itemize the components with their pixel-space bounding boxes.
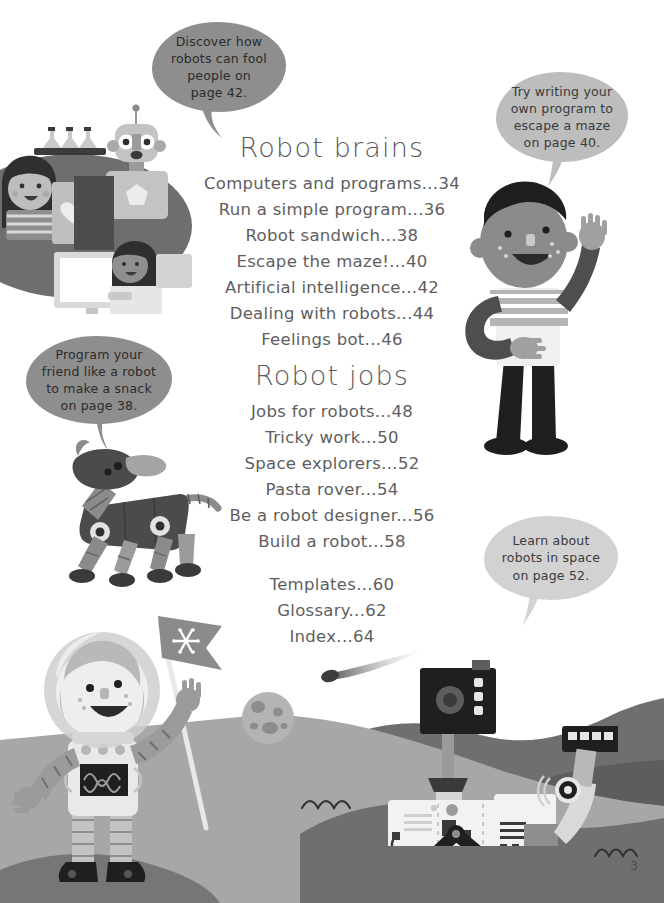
toc-entry-dots: ... [422, 174, 439, 193]
toc-entry-page: 36 [424, 200, 446, 219]
toc-entry-page: 38 [397, 226, 419, 245]
toc-entry-dots: ... [401, 278, 418, 297]
toc-entry[interactable]: Robot sandwich...38 [0, 223, 664, 249]
mars-rover-illustration [378, 618, 618, 846]
toc-entry-title: Robot sandwich [246, 226, 381, 245]
toc-entry-dots: ... [368, 532, 385, 551]
toc-entry-page: 34 [438, 174, 460, 193]
page-number: 3 [630, 859, 638, 873]
toc-entry-title: Computers and programs [204, 174, 422, 193]
bubble-line: Discover how [171, 33, 267, 50]
toc-entry-title: Dealing with robots [230, 304, 396, 323]
toc-entry-page: 50 [377, 428, 399, 447]
toc-entry[interactable]: Pasta rover...54 [0, 477, 664, 503]
bubble-line: Try writing your [511, 83, 613, 100]
toc-entry-page: 56 [413, 506, 435, 525]
toc-entry-dots: ... [356, 575, 373, 594]
bubble-tail-icon [518, 592, 552, 628]
bubble-line: escape a maze [511, 117, 613, 134]
toc-entry-title: Feelings bot [261, 330, 364, 349]
toc-entry-title: Artificial intelligence [225, 278, 401, 297]
toc-entry[interactable]: Run a simple program...36 [0, 197, 664, 223]
toc-entry-dots: ... [389, 252, 406, 271]
toc-entry-title: Escape the maze! [236, 252, 389, 271]
toc-entry-page: 58 [384, 532, 406, 551]
toc-entry-title: Space explorers [244, 454, 381, 473]
toc-entry-dots: ... [396, 304, 413, 323]
toc-entry-dots: ... [380, 226, 397, 245]
speech-bubble-discover[interactable]: Discover how robots can fool people on p… [152, 22, 286, 112]
toc-entry-dots: ... [375, 402, 392, 421]
toc-entry-page: 60 [373, 575, 395, 594]
bubble-line: Learn about [502, 532, 601, 549]
moon-illustration [240, 690, 296, 746]
toc-entry-page: 64 [353, 627, 375, 646]
toc-entry-page: 54 [377, 480, 399, 499]
toc-entry-title: Build a robot [258, 532, 367, 551]
toc-entry[interactable]: Index...64 [0, 624, 664, 650]
toc-entry-title: Run a simple program [219, 200, 407, 219]
toc-entry-page: 44 [413, 304, 435, 323]
toc-entry-title: Be a robot designer [230, 506, 397, 525]
toc-entry[interactable]: Dealing with robots...44 [0, 301, 664, 327]
toc-entry-title: Index [289, 627, 336, 646]
toc-entry-title: Pasta rover [266, 480, 361, 499]
toc-entry[interactable]: Artificial intelligence...42 [0, 275, 664, 301]
toc-entry-title: Glossary [277, 601, 348, 620]
toc-entry[interactable]: Escape the maze!...40 [0, 249, 664, 275]
toc-entry-title: Tricky work [265, 428, 360, 447]
toc-entry-page: 40 [406, 252, 428, 271]
toc-entry-dots: ... [396, 506, 413, 525]
toc-entry-dots: ... [365, 330, 382, 349]
squiggle-decoration-center [298, 790, 362, 814]
speech-bubble-maze[interactable]: Try writing your own program to escape a… [496, 72, 628, 162]
toc-entry-dots: ... [336, 627, 353, 646]
toc-entry-dots: ... [349, 601, 366, 620]
bubble-line: friend like a robot [42, 363, 156, 380]
toc-entry[interactable]: Glossary...62 [0, 598, 664, 624]
toc-entry-page: 46 [381, 330, 403, 349]
toc-entry-page: 42 [417, 278, 439, 297]
bubble-line: on page 52. [502, 567, 601, 584]
bubble-line: page 42. [171, 84, 267, 101]
bubble-line: to make a snack [42, 380, 156, 397]
toc-entry-dots: ... [381, 454, 398, 473]
bubble-line: on page 40. [511, 134, 613, 151]
bubble-tail-icon [88, 416, 122, 452]
toc-entry-page: 52 [398, 454, 420, 473]
bubble-line: robots can fool [171, 50, 267, 67]
bubble-line: people on [171, 67, 267, 84]
squiggle-decoration-corner [592, 840, 648, 862]
bubble-line: Program your [42, 346, 156, 363]
bubble-line: on page 38. [42, 397, 156, 414]
bubble-tail-icon [544, 152, 578, 188]
bubble-tail-icon [196, 106, 230, 140]
toc-entry-page: 62 [365, 601, 387, 620]
toc-entry-dots: ... [361, 428, 378, 447]
toc-entry-title: Jobs for robots [251, 402, 375, 421]
toc-entry[interactable]: Space explorers...52 [0, 451, 664, 477]
bubble-line: own program to [511, 100, 613, 117]
toc-entry-title: Templates [270, 575, 357, 594]
speech-bubble-space[interactable]: Learn about robots in space on page 52. [484, 516, 618, 600]
toc-entry-dots: ... [360, 480, 377, 499]
toc-entry-dots: ... [407, 200, 424, 219]
bubble-line: robots in space [502, 549, 601, 566]
speech-bubble-snack[interactable]: Program your friend like a robot to make… [26, 336, 172, 424]
toc-entry-page: 48 [391, 402, 413, 421]
contents-page: Robot brains Computers and programs...34… [0, 0, 664, 903]
